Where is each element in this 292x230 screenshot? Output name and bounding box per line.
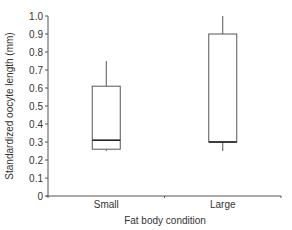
y-tick-label: 0.1 [29,173,43,184]
x-axis-title: Fat body condition [124,215,206,226]
x-tick-label: Small [94,199,119,210]
x-tick-label: Large [210,199,236,210]
y-tick-label: 0.6 [29,83,43,94]
x-axis: SmallLarge [46,196,281,210]
y-axis: 00.10.20.30.40.50.60.70.80.91.0 [29,11,48,202]
box-large [209,16,237,151]
box-small [92,61,120,151]
boxes [92,16,237,151]
y-tick-label: 0.5 [29,101,43,112]
y-tick-label: 0 [37,191,43,202]
y-tick-label: 0.4 [29,119,43,130]
y-tick-label: 0.8 [29,47,43,58]
y-axis-title: Standardized oocyte length (mm) [4,32,15,179]
y-tick-label: 1.0 [29,11,43,22]
y-tick-label: 0.2 [29,155,43,166]
y-tick-label: 0.7 [29,65,43,76]
y-tick-label: 0.3 [29,137,43,148]
box-plot: 00.10.20.30.40.50.60.70.80.91.0 SmallLar… [0,0,292,230]
y-tick-label: 0.9 [29,29,43,40]
